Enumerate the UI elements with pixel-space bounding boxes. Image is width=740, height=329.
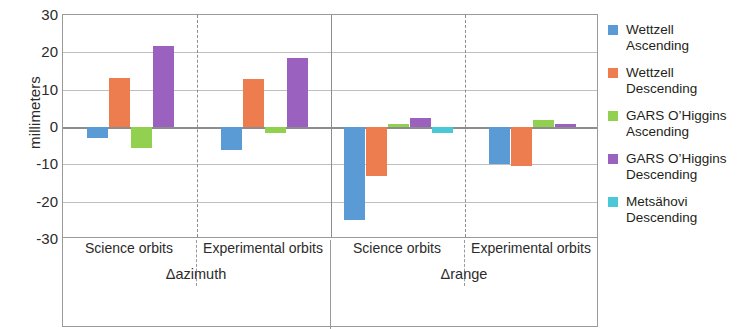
bar bbox=[555, 124, 576, 127]
bar bbox=[344, 127, 365, 220]
y-tick-label: 30 bbox=[14, 6, 58, 23]
legend-entry: GARS O’HigginsDescending bbox=[608, 151, 740, 183]
gridline bbox=[63, 90, 597, 91]
legend-label-secondary: Descending bbox=[626, 210, 740, 226]
bar bbox=[489, 127, 510, 164]
legend-entry: GARS O’HigginsAscending bbox=[608, 108, 740, 140]
legend-swatch-wettzell-ascending bbox=[608, 25, 618, 35]
x-axis-group-label: Experimental orbits bbox=[464, 240, 598, 256]
y-tick-label: 10 bbox=[14, 80, 58, 97]
legend-label-primary: Wettzell bbox=[626, 22, 740, 38]
bar bbox=[410, 118, 431, 127]
plot-inner bbox=[63, 15, 597, 237]
legend-label-primary: GARS O’Higgins bbox=[626, 151, 740, 167]
y-tick-label: -20 bbox=[14, 192, 58, 209]
y-tick-label: -30 bbox=[14, 230, 58, 247]
bar bbox=[265, 127, 286, 133]
bar bbox=[221, 127, 242, 150]
bar bbox=[243, 79, 264, 127]
bar bbox=[131, 127, 152, 148]
legend-label-primary: GARS O’Higgins bbox=[626, 108, 740, 124]
group-label-row: Science orbitsExperimental orbitsScience… bbox=[62, 240, 598, 264]
gridline bbox=[63, 202, 597, 203]
bar bbox=[366, 127, 387, 176]
bar bbox=[87, 127, 108, 138]
y-axis-tick-labels: 3020100-10-20-30 bbox=[14, 14, 58, 238]
panel-label-row: ΔazimuthΔrange bbox=[62, 266, 598, 290]
legend-label-secondary: Descending bbox=[626, 81, 740, 97]
legend-label-primary: Wettzell bbox=[626, 65, 740, 81]
bar bbox=[153, 46, 174, 127]
legend-label-primary: Metsähovi bbox=[626, 194, 740, 210]
gridline bbox=[63, 52, 597, 53]
bar bbox=[432, 127, 453, 133]
x-axis-group-label: Science orbits bbox=[330, 240, 464, 256]
x-axis-panel-label: Δazimuth bbox=[62, 266, 330, 282]
bar bbox=[287, 58, 308, 127]
x-axis-group-label: Experimental orbits bbox=[196, 240, 330, 256]
panel-separator bbox=[331, 15, 332, 237]
legend-entry: MetsähoviDescending bbox=[608, 194, 740, 226]
legend-swatch-ohiggins-ascending bbox=[608, 111, 618, 121]
bar bbox=[388, 124, 409, 127]
legend-swatch-wettzell-descending bbox=[608, 68, 618, 78]
x-axis-panel-label: Δrange bbox=[330, 266, 598, 282]
legend-label-secondary: Descending bbox=[626, 167, 740, 183]
legend-swatch-ohiggins-descending bbox=[608, 154, 618, 164]
legend-label-secondary: Ascending bbox=[626, 124, 740, 140]
y-tick-label: 0 bbox=[14, 118, 58, 135]
group-separator-dashed bbox=[197, 15, 198, 237]
bar bbox=[533, 120, 554, 127]
y-tick-label: -10 bbox=[14, 155, 58, 172]
legend-swatch-metsahovi-descending bbox=[608, 197, 618, 207]
y-tick-label: 20 bbox=[14, 43, 58, 60]
bar bbox=[109, 78, 130, 127]
legend-label-secondary: Ascending bbox=[626, 38, 740, 54]
plot-area bbox=[62, 14, 598, 238]
legend-entry: WettzellDescending bbox=[608, 65, 740, 97]
group-separator-dashed bbox=[465, 15, 466, 237]
chart-legend: WettzellAscendingWettzellDescendingGARS … bbox=[608, 22, 740, 237]
legend-entry: WettzellAscending bbox=[608, 22, 740, 54]
x-axis-group-label: Science orbits bbox=[62, 240, 196, 256]
bar bbox=[511, 127, 532, 166]
